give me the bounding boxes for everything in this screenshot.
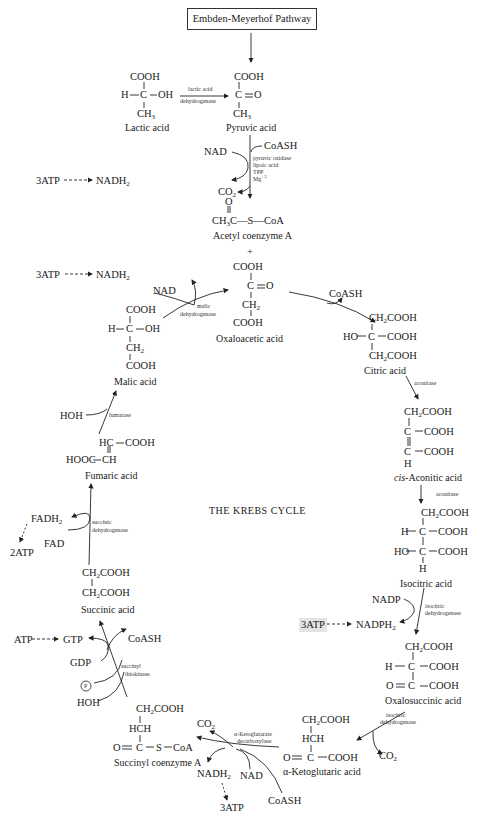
lactic-acid-line1: COOH — [130, 71, 160, 83]
citric-line3: CH2COOH — [369, 350, 417, 362]
phosphate-p: P — [84, 683, 87, 690]
fumaric-hc: HC — [99, 437, 114, 449]
nad-3: NAD — [240, 770, 263, 782]
malic-line1: COOH — [126, 304, 156, 316]
aconitase-2: aconitase — [436, 491, 458, 498]
pyruvic-acid-line1: COOH — [234, 71, 264, 83]
malic-dh-1: malic — [197, 303, 210, 310]
gtp: GTP — [63, 634, 83, 646]
lactic-acid-c: C — [140, 89, 147, 101]
ldh-enzyme-1: lactic acid — [188, 86, 212, 93]
oxaloacetic-line4: COOH — [233, 317, 263, 329]
malic-oh: OH — [145, 323, 160, 335]
succinic-line1: CH2COOH — [82, 567, 130, 579]
succinic-line2: CH2COOH — [82, 587, 130, 599]
akg-decarboxylase-1: α-Ketoglutarate — [234, 731, 272, 738]
fumarase-label: fumarase — [109, 412, 131, 419]
oxalosuccinic-c1: C — [408, 661, 415, 673]
oxalosuccinic-cooh1: COOH — [429, 661, 459, 673]
krebs-cycle-title: THE KREBS CYCLE — [209, 505, 306, 516]
lactic-acid-oh: OH — [158, 89, 173, 101]
plus-sign: + — [247, 246, 253, 258]
fad: FAD — [44, 538, 64, 550]
coash-1: CoASH — [264, 140, 297, 152]
malic-line4: COOH — [126, 360, 156, 372]
atp-3-b: 3ATP — [36, 269, 60, 281]
malic-dh-2: dehydrogenase — [180, 311, 216, 318]
succinyl-c: C — [136, 742, 143, 754]
fumaric-acid-label: Fumaric acid — [85, 470, 137, 482]
isocitric-acid-label: Isocitric acid — [400, 578, 452, 590]
nad-2: NAD — [153, 285, 176, 297]
pyruvic-acid-c: C — [235, 89, 242, 101]
oxalosuccinic-cooh2: COOH — [429, 680, 459, 692]
citric-ho: HO — [343, 331, 358, 343]
nadh2-3: NADH2 — [197, 768, 231, 780]
fumaric-cooh: COOH — [125, 437, 155, 449]
fumaric-hooc: HOOC — [66, 454, 96, 466]
succinyl-hch: HCH — [129, 723, 151, 735]
fadh2: FADH2 — [31, 513, 62, 525]
akg-line1: CH2COOH — [302, 714, 350, 726]
succinic-dh-2: dehydrogenase — [92, 527, 128, 534]
isocitric-h: H — [401, 526, 409, 538]
oxalosuccinic-o: O — [386, 680, 394, 692]
co2-2: CO2 — [197, 718, 215, 730]
oxalosuccinic-h: H — [385, 661, 393, 673]
coash-4: CoASH — [128, 633, 161, 645]
isocitric-c1: C — [419, 526, 426, 538]
oxaloacetic-label: Oxaloacetic acid — [216, 333, 283, 345]
cis-aconitic-h: H — [404, 458, 412, 470]
lactic-acid-ch3: CH3 — [137, 108, 155, 120]
cis-aconitic-line1: CH2COOH — [404, 406, 452, 418]
atp-3-c: 3ATP — [299, 618, 327, 632]
citric-acid-label: Citric acid — [364, 365, 406, 377]
oxaloacetic-line1: COOH — [233, 261, 263, 273]
isocitric-cooh2: COOH — [438, 546, 468, 558]
oxaloacetic-o: O — [266, 280, 274, 292]
nadh2-2: NADH2 — [96, 269, 130, 281]
akg-hch: HCH — [302, 733, 324, 745]
akg-cooh: COOH — [328, 752, 358, 764]
malic-ch2: CH2 — [126, 342, 144, 354]
succinyl-thiokinase-2: thiokinase — [125, 671, 150, 678]
isocitric-h2: H — [419, 563, 427, 575]
nadph2: NADPH2 — [356, 619, 396, 631]
isocitric-dh-1b: dehydrogenase — [425, 610, 461, 617]
lactic-acid-h: H — [121, 89, 129, 101]
gdp: GDP — [70, 657, 91, 669]
fumaric-ch: CH — [102, 454, 117, 466]
atp-3-a: 3ATP — [36, 175, 60, 187]
succinyl-s: S — [156, 742, 162, 754]
akg-label: α-Ketoglutaric acid — [283, 766, 361, 778]
co2-3: CO2 — [379, 750, 397, 762]
akg-c: C — [307, 752, 314, 764]
citric-cooh: COOH — [387, 331, 417, 343]
succinic-dh-1: succinic — [92, 519, 112, 526]
oxalosuccinic-line1: CH2COOH — [405, 641, 453, 653]
isocitric-dh-2a: isocitric — [386, 712, 405, 719]
citric-c: C — [368, 331, 375, 343]
hoh-2: HOH — [77, 697, 100, 709]
atp-2: 2ATP — [10, 547, 34, 559]
coash-3: CoASH — [268, 795, 301, 807]
cis-aconitic-c2: C — [404, 446, 411, 458]
hoh-1: HOH — [60, 410, 83, 422]
oxaloacetic-ch2: CH2 — [242, 299, 260, 311]
succinyl-o: O — [113, 742, 121, 754]
succinyl-coa: CoA — [173, 742, 193, 754]
malic-c: C — [126, 323, 133, 335]
isocitric-ho: HO — [394, 546, 409, 558]
aconitase-1: aconitase — [414, 380, 436, 387]
succinic-acid-label: Succinic acid — [81, 604, 135, 616]
nadh2-1: NADH2 — [96, 175, 130, 187]
oxalosuccinic-c2: C — [408, 680, 415, 692]
isocitric-cooh1: COOH — [438, 526, 468, 538]
cis-aconitic-c1: C — [404, 426, 411, 438]
isocitric-line1: CH2COOH — [421, 507, 469, 519]
coash-2: CoASH — [329, 288, 362, 300]
oxaloacetic-c: C — [247, 280, 254, 292]
ldh-enzyme-2: dehydrogenase — [180, 98, 216, 105]
isocitric-dh-2b: dehydrogenase — [380, 719, 416, 726]
lactic-acid-label: Lactic acid — [125, 122, 169, 134]
